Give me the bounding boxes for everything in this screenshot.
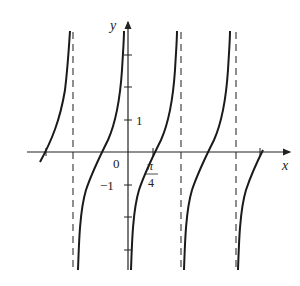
x-tick-label-4: 4 <box>148 176 154 190</box>
x-axis-label: x <box>281 158 289 173</box>
tangent-curve <box>40 31 263 270</box>
x-tick-label-pi: π <box>147 159 154 173</box>
origin-label: 0 <box>113 156 120 171</box>
y-tick-label-1: 1 <box>136 113 143 128</box>
y-axis-label: y <box>108 18 117 33</box>
y-tick-label-neg1: −1 <box>100 178 114 193</box>
tangent-graph: y x 0 1 −1 π 4 <box>0 0 300 286</box>
